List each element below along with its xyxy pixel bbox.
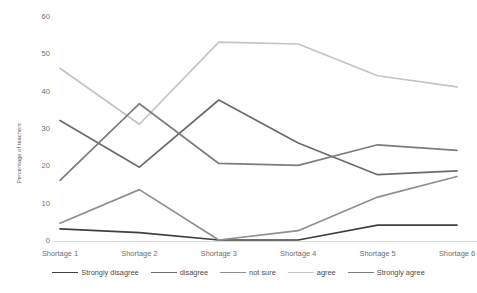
legend-swatch-icon — [348, 272, 374, 273]
line-chart: 0102030405060 Percentage of teachers Sho… — [0, 0, 477, 293]
chart-legend: Strongly disagreedisagreenot sureagreeSt… — [0, 268, 477, 277]
x-axis-tick-6: Shortage 6 — [439, 249, 475, 258]
series-line-not-sure — [60, 177, 457, 240]
x-axis-tick-2: Shortage 2 — [121, 249, 157, 258]
legend-swatch-icon — [220, 272, 246, 273]
x-axis-tick-5: Shortage 5 — [360, 249, 396, 258]
legend-swatch-icon — [288, 272, 314, 273]
legend-swatch-icon — [151, 272, 177, 273]
x-axis-tick-4: Shortage 4 — [280, 249, 316, 258]
legend-item-strongly-disagree[interactable]: Strongly disagree — [52, 268, 139, 277]
series-line-strongly-agree — [60, 104, 457, 181]
legend-label: disagree — [180, 268, 208, 277]
x-axis-tick-3: Shortage 3 — [201, 249, 237, 258]
series-line-strongly-disagree — [60, 225, 457, 240]
legend-label: Strongly disagree — [81, 268, 139, 277]
legend-label: Strongly agree — [377, 268, 425, 277]
legend-item-strongly-agree[interactable]: Strongly agree — [348, 268, 425, 277]
series-line-agree — [60, 42, 457, 124]
legend-swatch-icon — [52, 272, 78, 273]
legend-item-not-sure[interactable]: not sure — [220, 268, 276, 277]
legend-item-disagree[interactable]: disagree — [151, 268, 208, 277]
legend-label: agree — [317, 268, 336, 277]
x-axis-tick-1: Shortage 1 — [42, 249, 78, 258]
legend-item-agree[interactable]: agree — [288, 268, 336, 277]
legend-label: not sure — [249, 268, 276, 277]
